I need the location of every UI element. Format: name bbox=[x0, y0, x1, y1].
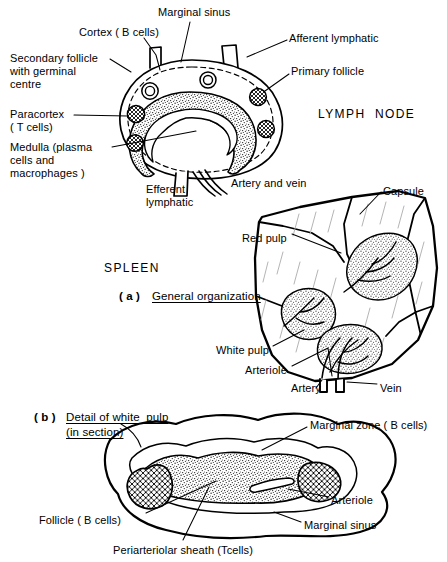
label-arteriole-spleen: Arteriole bbox=[245, 364, 287, 377]
label-white-pulp: White pulp bbox=[216, 344, 269, 357]
label-red-pulp: Red pulp bbox=[242, 232, 287, 245]
label-follicle: Follicle ( B cells) bbox=[39, 514, 121, 527]
label-cortex: Cortex ( B cells) bbox=[79, 26, 159, 39]
label-medulla: Medulla (plasma cells and macrophages ) bbox=[10, 141, 92, 180]
label-marginal-zone: Marginal zone ( B cells) bbox=[310, 419, 427, 432]
follicle-b-cells bbox=[127, 465, 172, 509]
figure-page: Marginal sinus Cortex ( B cells) Afferen… bbox=[0, 0, 447, 562]
heading-lymph-node: LYMPH NODE bbox=[318, 108, 415, 121]
label-primary-follicle: Primary follicle bbox=[291, 65, 364, 78]
spleen-vein-stub bbox=[336, 379, 344, 392]
label-capsule: Capsule bbox=[383, 185, 424, 198]
label-vein: Vein bbox=[380, 382, 402, 395]
panel-b-caption-line2: (in section) bbox=[66, 426, 123, 439]
panel-b-caption-line1: Detail of white pulp bbox=[66, 411, 168, 424]
lymph-node-drawing bbox=[74, 22, 289, 196]
spleen-drawing bbox=[255, 191, 437, 392]
panel-a-caption: General organization bbox=[152, 290, 261, 303]
label-marginal-sinus-detail: Marginal sinus bbox=[304, 519, 376, 532]
heading-spleen: SPLEEN bbox=[104, 262, 160, 275]
label-periarteriolar-sheath: Periarteriolar sheath (Tcells) bbox=[113, 544, 253, 557]
label-arteriole-detail: Arteriole bbox=[331, 494, 373, 507]
label-efferent-lymphatic: Efferent lymphatic bbox=[146, 183, 193, 209]
label-secondary-follicle: Secondary follicle with germinal centre bbox=[10, 52, 98, 91]
panel-b-marker: ( b ) bbox=[34, 411, 56, 424]
panel-a-marker: ( a ) bbox=[119, 290, 140, 303]
label-paracortex: Paracortex ( T cells) bbox=[10, 108, 64, 134]
label-artery: Artery bbox=[291, 382, 321, 395]
label-artery-and-vein: Artery and vein bbox=[231, 177, 306, 190]
label-marginal-sinus: Marginal sinus bbox=[158, 6, 230, 19]
label-afferent-lymphatic: Afferent lymphatic bbox=[289, 32, 379, 45]
